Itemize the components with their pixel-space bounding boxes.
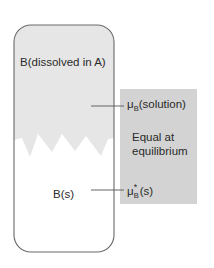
suffix: (solution) xyxy=(139,98,186,110)
chemical-potential-solid-label: μ*B(s) xyxy=(127,185,153,197)
mu-symbol: μ xyxy=(127,185,134,197)
chemical-potential-solution-label: μB(solution) xyxy=(127,98,186,113)
equilibrium-note: Equal at equilibrium xyxy=(132,130,188,158)
diagram: B(dissolved in A) B(s) μB(solution) Equa… xyxy=(0,0,214,268)
suffix: (s) xyxy=(140,185,153,197)
lower-phase-label: B(s) xyxy=(53,188,74,200)
subscript: B xyxy=(134,191,139,200)
super-subscript: *B xyxy=(134,186,140,196)
equilibrium-note-line-2: equilibrium xyxy=(132,144,188,158)
equilibrium-note-line-1: Equal at xyxy=(132,130,188,144)
mu-symbol: μ xyxy=(127,98,134,110)
upper-phase-label: B(dissolved in A) xyxy=(20,56,106,68)
